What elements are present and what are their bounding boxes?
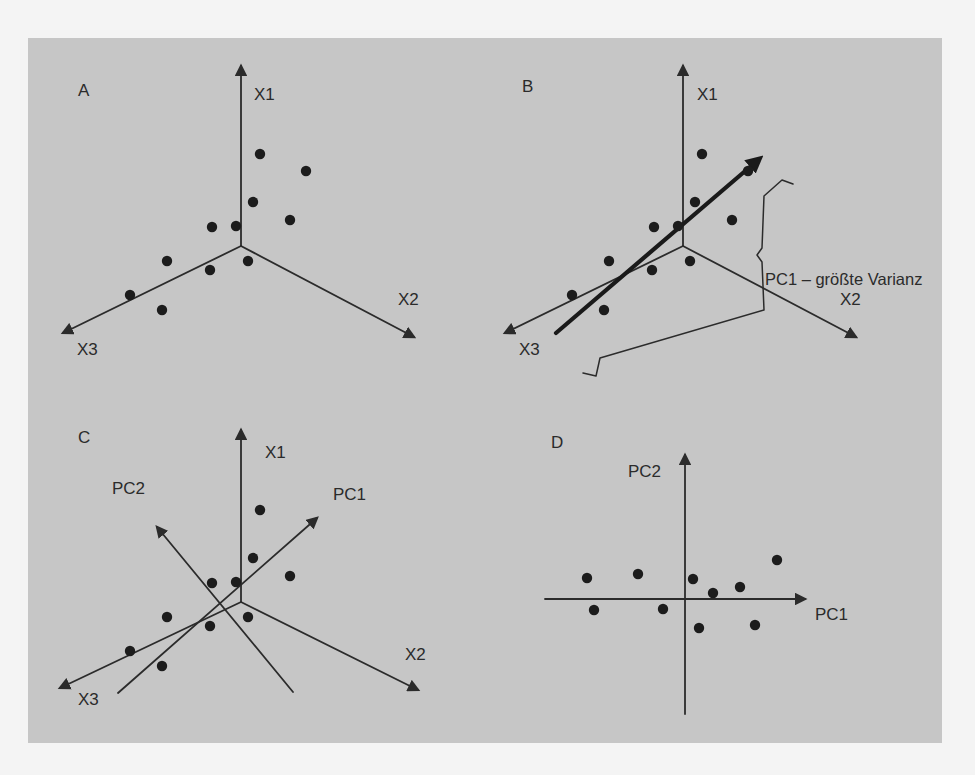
data-point bbox=[685, 256, 695, 266]
data-point bbox=[599, 305, 609, 315]
panel-a-axis-x3 bbox=[63, 246, 241, 333]
data-point bbox=[255, 149, 265, 159]
data-point bbox=[589, 605, 599, 615]
data-point bbox=[157, 305, 167, 315]
panel-d-letter: D bbox=[551, 433, 563, 452]
data-point bbox=[162, 256, 172, 266]
data-point bbox=[750, 620, 760, 630]
panel-c-axis-x3 bbox=[60, 602, 241, 688]
data-point bbox=[694, 623, 704, 633]
data-point bbox=[243, 256, 253, 266]
panel-b-annotation-label: PC1 – größte Varianz bbox=[765, 270, 922, 288]
data-point bbox=[248, 197, 258, 207]
data-point bbox=[772, 555, 782, 565]
data-point bbox=[285, 571, 295, 581]
data-point bbox=[285, 215, 295, 225]
data-point bbox=[205, 621, 215, 631]
panel-c-label-x3: X3 bbox=[78, 690, 99, 709]
data-point bbox=[231, 221, 241, 231]
panel-d: D PC2 PC1 bbox=[545, 433, 848, 714]
data-point bbox=[205, 265, 215, 275]
data-point bbox=[688, 574, 698, 584]
panel-b-label-x3: X3 bbox=[519, 340, 540, 359]
data-point bbox=[647, 265, 657, 275]
panel-c: C X1 X2 X3 PC1 PC2 bbox=[60, 428, 426, 709]
data-point bbox=[125, 646, 135, 656]
data-point bbox=[207, 222, 217, 232]
panel-c-axis-x2 bbox=[241, 602, 418, 690]
panel-b-points bbox=[567, 149, 753, 315]
page-root: A X1 X2 X3 bbox=[0, 0, 975, 775]
panel-a-label-x2: X2 bbox=[398, 290, 419, 309]
data-point bbox=[633, 569, 643, 579]
panel-d-label-pc1: PC1 bbox=[815, 605, 848, 624]
data-point bbox=[231, 577, 241, 587]
panel-d-label-pc2: PC2 bbox=[628, 462, 661, 481]
data-point bbox=[658, 604, 668, 614]
panel-b-variance-brace bbox=[583, 180, 793, 376]
data-point bbox=[301, 166, 311, 176]
data-point bbox=[255, 505, 265, 515]
panel-a-axes bbox=[63, 66, 414, 337]
panel-c-axis-pc2 bbox=[157, 527, 293, 692]
panel-d-points bbox=[582, 555, 782, 633]
data-point bbox=[582, 573, 592, 583]
data-point bbox=[735, 582, 745, 592]
panel-a-points bbox=[125, 149, 311, 315]
data-point bbox=[567, 290, 577, 300]
data-point bbox=[248, 553, 258, 563]
data-point bbox=[673, 221, 683, 231]
data-point bbox=[157, 661, 167, 671]
panel-a-label-x1: X1 bbox=[254, 85, 275, 104]
panel-b: B X1 X2 X3 PC1 – größte Varianz bbox=[505, 66, 922, 376]
panel-b-letter: B bbox=[522, 77, 533, 96]
panel-b-label-x1: X1 bbox=[697, 85, 718, 104]
data-point bbox=[207, 578, 217, 588]
data-point bbox=[125, 290, 135, 300]
panel-c-letter: C bbox=[78, 428, 90, 447]
panel-a: A X1 X2 X3 bbox=[63, 66, 419, 359]
data-point bbox=[243, 612, 253, 622]
panel-c-axes bbox=[60, 430, 418, 690]
panel-b-axis-x3 bbox=[505, 246, 683, 333]
panel-c-label-x1: X1 bbox=[265, 443, 286, 462]
data-point bbox=[727, 215, 737, 225]
panel-a-letter: A bbox=[78, 81, 90, 100]
panel-a-axis-x2 bbox=[241, 246, 414, 337]
data-point bbox=[649, 222, 659, 232]
panel-d-axes bbox=[545, 455, 805, 714]
data-point bbox=[708, 588, 718, 598]
panel-a-label-x3: X3 bbox=[77, 340, 98, 359]
panel-c-label-x2: X2 bbox=[405, 645, 426, 664]
panel-b-pc1-arrow bbox=[556, 160, 758, 333]
panel-b-axes bbox=[505, 66, 856, 337]
data-point bbox=[690, 197, 700, 207]
pca-figure: A X1 X2 X3 bbox=[0, 0, 975, 775]
data-point bbox=[697, 149, 707, 159]
data-point bbox=[743, 166, 753, 176]
data-point bbox=[604, 256, 614, 266]
panel-b-axis-x2 bbox=[683, 246, 856, 337]
panel-c-label-pc1: PC1 bbox=[333, 485, 366, 504]
panel-c-points bbox=[125, 505, 295, 671]
panel-b-label-x2: X2 bbox=[840, 290, 861, 309]
data-point bbox=[162, 612, 172, 622]
panel-c-axis-pc1 bbox=[118, 518, 317, 693]
panel-c-label-pc2: PC2 bbox=[112, 479, 145, 498]
